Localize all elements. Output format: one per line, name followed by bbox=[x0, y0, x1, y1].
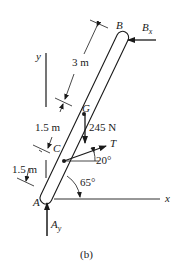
reaction-bx-label: Bx bbox=[142, 21, 153, 36]
point-a-label: A bbox=[32, 196, 40, 208]
weight-force-label: 245 N bbox=[89, 121, 116, 133]
free-body-diagram: B Bx y 3 m G 1.5 m 245 N C T 20° 1.5 m 6… bbox=[0, 0, 179, 272]
tension-angle-arc bbox=[94, 152, 95, 161]
rod-angle-arc bbox=[67, 176, 80, 197]
point-g-label: G bbox=[82, 102, 90, 114]
rod-angle-label: 65° bbox=[80, 176, 95, 188]
tension-force-label: T bbox=[110, 137, 117, 149]
reaction-ay-label: Ay bbox=[50, 218, 62, 233]
figure-caption: (b) bbox=[80, 248, 93, 261]
point-b-label: B bbox=[116, 19, 123, 31]
point-c-label: C bbox=[53, 142, 61, 154]
dimension-lower-label: 1.5 m bbox=[12, 163, 38, 175]
y-axis-label: y bbox=[35, 50, 41, 62]
dimension-upper-label: 3 m bbox=[72, 56, 89, 68]
tension-angle-label: 20° bbox=[96, 154, 111, 166]
dimension-middle-label: 1.5 m bbox=[35, 121, 61, 133]
x-axis-label: x bbox=[164, 192, 170, 204]
